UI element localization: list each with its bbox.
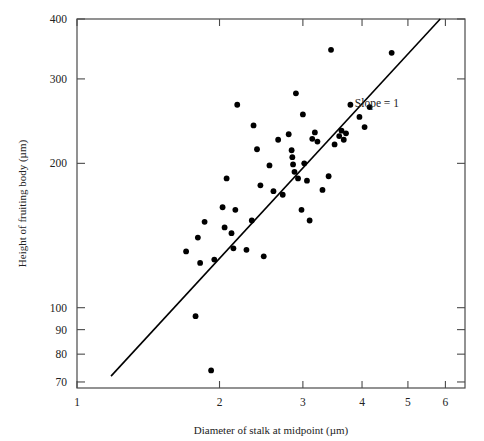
data-point: [362, 124, 368, 130]
data-point: [341, 137, 347, 143]
data-point: [258, 182, 264, 188]
data-point: [357, 114, 363, 120]
data-point: [267, 163, 273, 169]
x-tick-label-6: 6: [443, 396, 449, 408]
data-point: [343, 130, 349, 136]
data-point: [295, 176, 301, 182]
data-point: [309, 136, 315, 142]
data-point: [232, 207, 238, 213]
y-tick-label-100: 100: [50, 302, 68, 314]
x-tick-label-3: 3: [300, 396, 306, 408]
data-point: [183, 249, 189, 255]
data-point: [251, 122, 257, 128]
data-point: [244, 247, 250, 253]
data-point: [275, 137, 281, 143]
data-point: [222, 225, 228, 231]
slope-annotation: Slope = 1: [355, 97, 399, 110]
data-point: [254, 146, 260, 152]
data-point: [292, 169, 298, 175]
x-tick-label-5: 5: [405, 396, 411, 408]
data-point: [231, 245, 237, 251]
y-tick-label-200: 200: [50, 157, 68, 169]
y-tick-label-70: 70: [56, 376, 68, 388]
x-tick-label-4: 4: [359, 396, 365, 408]
x-axis-label: Diameter of stalk at midpoint (µm): [194, 424, 349, 437]
data-point: [293, 90, 299, 96]
data-point: [220, 204, 226, 210]
data-point: [280, 192, 286, 198]
data-point: [197, 260, 203, 266]
data-point: [202, 219, 208, 225]
data-point: [208, 367, 214, 373]
data-point: [224, 176, 230, 182]
data-point: [300, 111, 306, 117]
y-tick-label-400: 400: [50, 13, 68, 25]
data-point: [307, 218, 313, 224]
scatter-plot-figure: 123456708090100200300400Slope = 1Diamete…: [0, 0, 484, 441]
fit-line-slope-1: [111, 19, 440, 376]
data-point: [315, 139, 321, 145]
y-tick-label-90: 90: [56, 324, 68, 336]
data-point: [332, 142, 338, 148]
data-point: [301, 160, 307, 166]
data-point: [290, 161, 296, 167]
data-point: [328, 47, 334, 53]
data-point: [299, 207, 305, 213]
y-tick-label-300: 300: [50, 73, 68, 85]
data-point: [336, 133, 342, 139]
data-point: [193, 313, 199, 319]
data-point: [229, 230, 235, 236]
data-point: [289, 154, 295, 160]
data-point: [271, 188, 277, 194]
x-tick-label-2: 2: [217, 396, 223, 408]
data-point: [249, 218, 255, 224]
y-tick-label-80: 80: [56, 348, 68, 360]
data-point: [261, 253, 267, 259]
data-point: [389, 50, 395, 56]
data-point: [326, 173, 332, 179]
data-point: [286, 131, 292, 137]
y-axis-label: Height of fruiting body (µm): [16, 140, 29, 268]
x-tick-label-1: 1: [74, 396, 80, 408]
data-point: [195, 235, 201, 241]
data-point: [211, 257, 217, 263]
data-point: [304, 178, 310, 184]
data-point: [312, 130, 318, 136]
data-point: [320, 187, 326, 193]
data-point: [234, 102, 240, 108]
plot-canvas: 123456708090100200300400Slope = 1Diamete…: [0, 0, 484, 441]
data-point: [289, 147, 295, 153]
data-point: [348, 102, 354, 108]
